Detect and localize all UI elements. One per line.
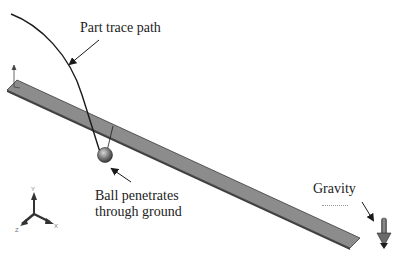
ball-penetrates-label: Ball penetrates through ground [95,188,182,220]
triad-y-label: Y [31,186,35,192]
ground-plate [7,80,360,250]
ball-arrow-icon [112,169,131,182]
coordinate-triad-icon: Y Z X [15,186,58,233]
gravity-arrow-icon [377,218,391,249]
gravity-label-arrow-icon [362,202,373,220]
triad-x-label: X [54,223,58,229]
ball [98,148,113,163]
part-trace-path-label: Part trace path [80,20,161,36]
diagram-graphics: Y Z X [0,0,399,254]
ball-label-line1: Ball penetrates [95,188,182,204]
simulation-diagram: Y Z X Part trace path Ball penetrates th… [0,0,399,254]
trace-path-arrow-icon [70,40,99,64]
triad-z-label: Z [15,227,19,233]
ball-label-line2: through ground [95,204,182,220]
gravity-label: Gravity [313,181,356,197]
gravity-underline [322,205,348,206]
